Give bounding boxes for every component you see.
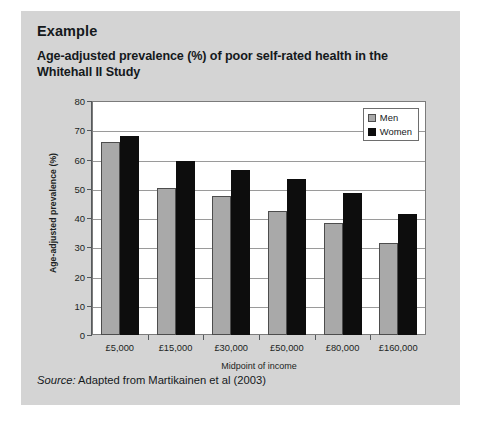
bar-group (370, 101, 426, 335)
bar-group (315, 101, 371, 335)
bar-women (287, 179, 306, 335)
source-prefix: Source: (37, 374, 76, 386)
bar-women (398, 214, 417, 335)
bar-group (92, 101, 148, 335)
y-axis-tick-label: 30 (55, 242, 85, 253)
x-axis-tick-mark (370, 335, 371, 340)
x-axis-tick-mark (259, 335, 260, 340)
example-panel: Example Age-adjusted prevalence (%) of p… (21, 11, 460, 405)
bar-chart: Age-adjusted prevalence (%) Men Women 01… (37, 96, 447, 366)
bar-group (259, 101, 315, 335)
bar-women (343, 193, 362, 335)
x-axis-tick-labels: £5,000£15,000£30,000£50,000£80,000£160,0… (92, 343, 426, 353)
source-text: Adapted from Martikainen et al (2003) (76, 374, 266, 386)
chart-title: Age-adjusted prevalence (%) of poor self… (37, 49, 437, 80)
x-axis-tick-label: £50,000 (259, 343, 315, 353)
bar-men (379, 243, 398, 335)
bar-women (231, 170, 250, 335)
x-axis-tick-mark (203, 335, 204, 340)
x-axis-tick-marks (92, 335, 426, 341)
y-axis-tick-label: 70 (55, 125, 85, 136)
y-axis-tick-label: 10 (55, 300, 85, 311)
screenshot-root: Example Age-adjusted prevalence (%) of p… (0, 0, 479, 424)
bar-women (176, 161, 195, 335)
bar-men (324, 223, 343, 335)
y-axis-tick-label: 50 (55, 183, 85, 194)
x-axis-tick-label: £5,000 (92, 343, 148, 353)
x-axis-tick-label: £30,000 (203, 343, 259, 353)
source-note: Source: Adapted from Martikainen et al (… (37, 374, 266, 386)
x-axis-title: Midpoint of income (92, 361, 426, 371)
example-heading: Example (37, 23, 97, 39)
bar-men (157, 188, 176, 335)
x-axis-tick-mark (148, 335, 149, 340)
y-axis-tick-label: 60 (55, 154, 85, 165)
bar-groups (92, 101, 426, 335)
y-axis-tick-label: 40 (55, 213, 85, 224)
y-axis-tick-label: 0 (55, 330, 85, 341)
x-axis-tick-label: £15,000 (148, 343, 204, 353)
bar-group (203, 101, 259, 335)
bar-men (268, 211, 287, 335)
bar-group (148, 101, 204, 335)
x-axis-tick-label: £80,000 (315, 343, 371, 353)
bar-men (212, 196, 231, 335)
x-axis-tick-label: £160,000 (370, 343, 426, 353)
y-axis-tick-label: 20 (55, 271, 85, 282)
y-axis-tick-label: 80 (55, 96, 85, 107)
x-axis-tick-mark (315, 335, 316, 340)
bar-men (101, 142, 120, 335)
bar-women (120, 136, 139, 335)
